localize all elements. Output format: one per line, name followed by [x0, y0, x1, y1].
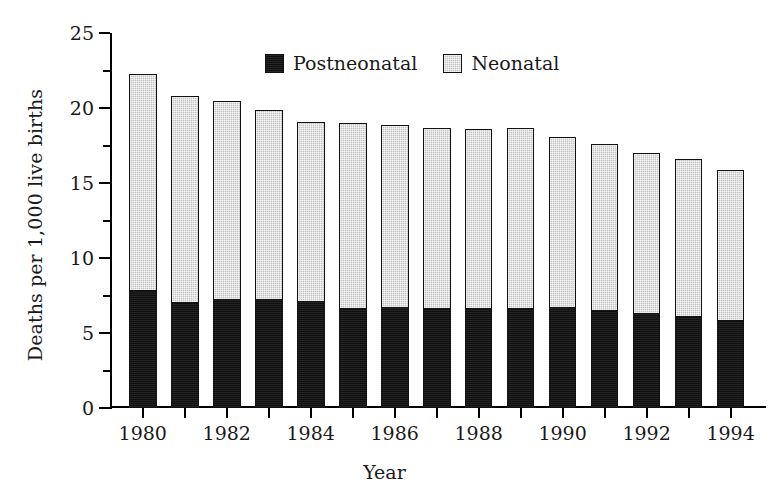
bar-segment-postneonatal	[717, 321, 745, 408]
bar-1994	[717, 170, 745, 409]
bar-1980	[129, 74, 157, 409]
bar-segment-neonatal	[255, 110, 283, 301]
x-axis-tick-label: 1990	[538, 422, 586, 444]
y-axis-tick-minor	[103, 220, 110, 222]
y-axis-title-container: Deaths per 1,000 live births	[8, 56, 42, 396]
y-axis-title: Deaths per 1,000 live births	[24, 60, 46, 390]
bar-segment-postneonatal	[675, 317, 703, 409]
y-axis-tick-minor	[103, 145, 110, 147]
x-axis-tick	[394, 408, 396, 418]
bar-segment-neonatal	[171, 96, 199, 303]
x-axis-tick	[226, 408, 228, 418]
y-axis-tick-minor	[103, 70, 110, 72]
bar-1992	[633, 153, 661, 408]
bar-1990	[549, 137, 577, 409]
gray-square-icon	[443, 54, 462, 73]
bar-segment-neonatal	[339, 123, 367, 309]
legend-label-postneonatal: Postneonatal	[293, 52, 417, 74]
bar-1984	[297, 122, 325, 409]
x-axis-tick-label: 1988	[454, 422, 502, 444]
legend-label-neonatal: Neonatal	[471, 52, 559, 74]
y-axis-tick-major	[99, 332, 110, 334]
bar-1993	[675, 159, 703, 408]
bar-segment-postneonatal	[171, 303, 199, 408]
legend-item-postneonatal: Postneonatal	[265, 52, 417, 74]
bar-1985	[339, 123, 367, 408]
legend-item-neonatal: Neonatal	[443, 52, 559, 74]
x-axis-tick	[478, 408, 480, 418]
y-axis-tick-label: 0	[82, 397, 94, 419]
bar-segment-neonatal	[549, 137, 577, 308]
bar-segment-neonatal	[423, 128, 451, 310]
bar-segment-postneonatal	[381, 308, 409, 409]
x-axis-tick	[604, 408, 606, 418]
bar-segment-postneonatal	[213, 300, 241, 408]
x-axis-tick-label: 1984	[287, 422, 335, 444]
y-axis-tick-label: 20	[70, 97, 94, 119]
y-axis-tick-major	[99, 182, 110, 184]
y-axis-tick-major	[99, 407, 110, 409]
bar-1982	[213, 101, 241, 409]
bar-segment-neonatal	[717, 170, 745, 322]
bar-segment-postneonatal	[423, 309, 451, 408]
bar-segment-neonatal	[213, 101, 241, 301]
bar-1987	[423, 128, 451, 409]
bar-segment-postneonatal	[549, 308, 577, 409]
y-axis-tick-major	[99, 107, 110, 109]
y-axis-line	[110, 33, 112, 409]
bar-segment-postneonatal	[507, 309, 535, 408]
x-axis-tick-label: 1994	[706, 422, 754, 444]
x-axis-tick	[520, 408, 522, 418]
bar-segment-neonatal	[675, 159, 703, 317]
bar-segment-postneonatal	[633, 314, 661, 409]
bar-1989	[507, 128, 535, 409]
bar-segment-postneonatal	[339, 309, 367, 408]
y-axis-tick-label: 15	[70, 172, 94, 194]
bar-1988	[465, 129, 493, 408]
bar-segment-neonatal	[465, 129, 493, 309]
bar-segment-neonatal	[591, 144, 619, 311]
y-axis-tick-major	[99, 257, 110, 259]
x-axis-tick	[688, 408, 690, 418]
x-axis-tick	[562, 408, 564, 418]
bar-segment-neonatal	[507, 128, 535, 310]
bar-segment-postneonatal	[297, 302, 325, 409]
x-axis-title: Year	[0, 461, 769, 483]
black-square-icon	[265, 54, 284, 73]
x-axis-tick	[142, 408, 144, 418]
bar-1983	[255, 110, 283, 409]
x-axis-tick-label: 1992	[622, 422, 670, 444]
x-axis-tick-label: 1986	[370, 422, 418, 444]
y-axis-tick-minor	[103, 370, 110, 372]
x-axis-tick-label: 1982	[203, 422, 251, 444]
bar-segment-neonatal	[381, 125, 409, 308]
x-axis-tick	[646, 408, 648, 418]
bar-segment-postneonatal	[255, 300, 283, 408]
infant-mortality-stacked-bar-chart: Deaths per 1,000 live births 0510152025 …	[0, 0, 769, 499]
y-axis-tick-label: 10	[70, 247, 94, 269]
y-axis-tick-label: 5	[82, 322, 94, 344]
x-axis-tick-label: 1980	[119, 422, 167, 444]
bar-segment-neonatal	[129, 74, 157, 292]
bar-segment-neonatal	[297, 122, 325, 302]
x-axis-tick	[730, 408, 732, 418]
bar-segment-postneonatal	[591, 311, 619, 409]
bar-1991	[591, 144, 619, 408]
x-axis-tick	[184, 408, 186, 418]
y-axis-tick-minor	[103, 295, 110, 297]
bar-segment-postneonatal	[129, 291, 157, 408]
x-axis-tick	[310, 408, 312, 418]
x-axis-tick	[436, 408, 438, 418]
x-axis-tick	[352, 408, 354, 418]
x-axis-tick	[268, 408, 270, 418]
bar-1986	[381, 125, 409, 409]
y-axis-tick-label: 25	[70, 22, 94, 44]
y-axis-tick-major	[99, 32, 110, 34]
bar-segment-neonatal	[633, 153, 661, 314]
bar-segment-postneonatal	[465, 309, 493, 408]
chart-legend: Postneonatal Neonatal	[265, 52, 559, 74]
bar-1981	[171, 96, 199, 408]
plot-area: 0510152025 19801982198419861988199019921…	[110, 33, 765, 408]
